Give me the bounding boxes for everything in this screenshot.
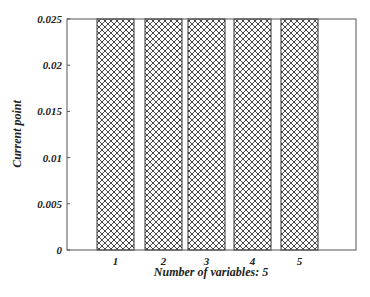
- bar-4: [234, 19, 271, 250]
- y-tick-label: 0.005: [37, 198, 62, 210]
- y-axis-label: Current point: [10, 99, 24, 167]
- y-tick-label: 0.02: [43, 59, 63, 71]
- y-tick-label: 0: [57, 244, 63, 256]
- bar-5: [281, 19, 318, 250]
- y-tick-label: 0.025: [37, 13, 62, 25]
- bars-group: [97, 19, 318, 250]
- x-tick-label: 1: [113, 255, 119, 267]
- y-axis-ticks: 00.0050.010.0150.020.025: [37, 13, 70, 256]
- bar-2: [145, 19, 182, 250]
- x-axis-label: Number of variables: 5: [153, 265, 268, 279]
- bar-chart: 00.0050.010.0150.020.025 12345 Current p…: [0, 0, 370, 297]
- bar-3: [188, 19, 225, 250]
- y-tick-label: 0.01: [43, 152, 62, 164]
- y-tick-label: 0.015: [37, 105, 62, 117]
- x-tick-label: 5: [297, 255, 303, 267]
- bar-1: [97, 19, 134, 250]
